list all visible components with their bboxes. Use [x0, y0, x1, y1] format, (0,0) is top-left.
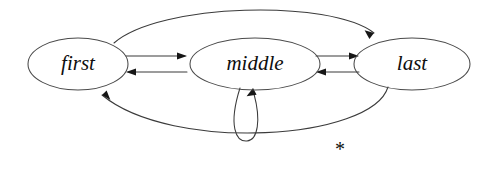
edge-label-star: * [335, 138, 345, 160]
node-middle-label: middle [226, 51, 283, 75]
edge-first-to-middle [126, 52, 187, 59]
edge-middle-to-last [316, 52, 359, 59]
edge-middle-to-first [126, 68, 187, 75]
graph-canvas: * first [0, 0, 496, 171]
edge-last-to-first-arc-path [102, 87, 388, 133]
edge-middle-self-loop-arrowhead [247, 88, 257, 96]
node-last-label: last [397, 51, 429, 75]
node-middle[interactable]: middle [190, 38, 320, 90]
edge-last-to-middle [316, 68, 359, 75]
edge-first-to-middle-arrowhead [177, 52, 187, 59]
node-last[interactable]: last [354, 38, 470, 90]
node-first[interactable]: first [28, 38, 128, 90]
edge-middle-to-last-arrowhead [349, 52, 359, 59]
state-diagram: * first [0, 0, 496, 171]
edge-last-to-first-arc: * [102, 87, 388, 160]
node-first-label: first [61, 51, 96, 75]
